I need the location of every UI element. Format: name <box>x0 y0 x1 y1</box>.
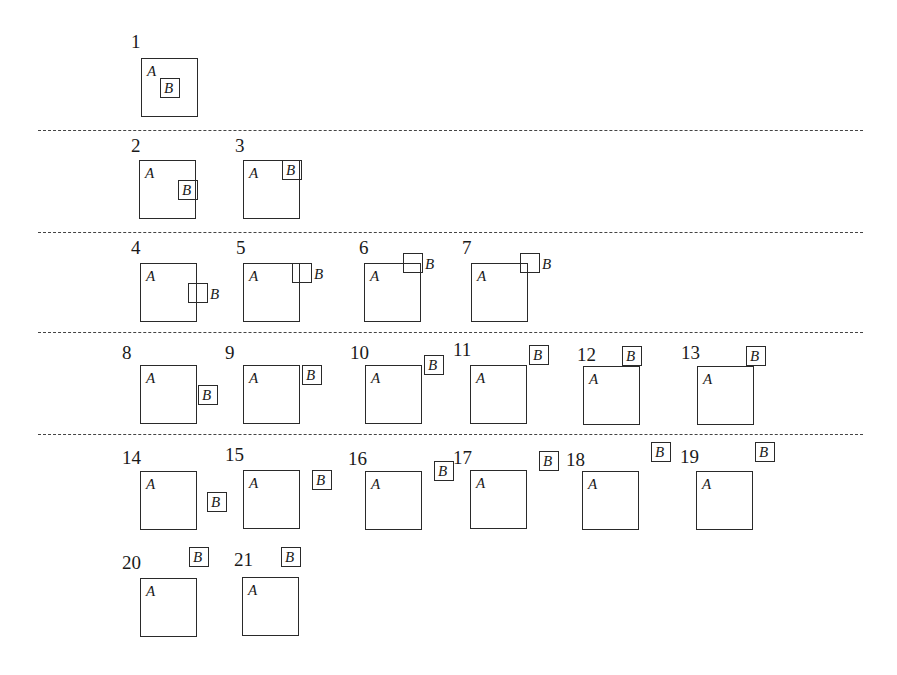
panel-number: 13 <box>681 343 700 362</box>
label-b: B <box>533 348 542 363</box>
label-a: A <box>145 166 154 181</box>
label-b: B <box>750 349 759 364</box>
label-a: A <box>703 372 712 387</box>
panel-number: 14 <box>122 448 141 467</box>
label-a: A <box>146 269 155 284</box>
label-a: A <box>476 476 485 491</box>
label-b: B <box>306 368 315 383</box>
label-a: A <box>248 583 257 598</box>
panel-number: 17 <box>453 448 472 467</box>
panel-number: 18 <box>566 450 585 469</box>
panel-number: 10 <box>350 343 369 362</box>
label-a: A <box>147 64 156 79</box>
panel-number: 9 <box>225 343 235 362</box>
panel-number: 11 <box>453 340 471 359</box>
panel-number: 7 <box>462 238 472 257</box>
label-b: B <box>759 445 768 460</box>
label-a: A <box>371 371 380 386</box>
label-b: B <box>210 287 219 302</box>
row-separator <box>38 434 863 435</box>
label-a: A <box>146 584 155 599</box>
panel-number: 2 <box>131 136 141 155</box>
label-a: A <box>146 371 155 386</box>
box-b <box>520 253 540 273</box>
label-b: B <box>425 257 434 272</box>
label-a: A <box>249 166 258 181</box>
label-a: A <box>589 372 598 387</box>
panel-number: 8 <box>122 343 132 362</box>
box-b <box>292 263 312 283</box>
label-b: B <box>202 388 211 403</box>
label-b: B <box>655 445 664 460</box>
label-b: B <box>285 550 294 565</box>
label-b: B <box>542 257 551 272</box>
label-b: B <box>193 550 202 565</box>
panel-number: 4 <box>131 238 141 257</box>
box-b <box>188 283 208 303</box>
label-a: A <box>249 476 258 491</box>
spatial-relations-diagram: 1AB2AB3AB4AB5AB6AB7AB8AB9AB10AB11AB12AB1… <box>0 0 897 675</box>
label-a: A <box>371 477 380 492</box>
panel-number: 19 <box>680 447 699 466</box>
label-b: B <box>438 464 447 479</box>
panel-number: 15 <box>225 445 244 464</box>
label-a: A <box>476 371 485 386</box>
panel-number: 1 <box>131 32 141 51</box>
box-b <box>403 253 423 273</box>
row-separator <box>38 332 863 333</box>
label-a: A <box>146 477 155 492</box>
label-b: B <box>164 81 173 96</box>
label-a: A <box>477 269 486 284</box>
label-b: B <box>428 358 437 373</box>
label-a: A <box>702 477 711 492</box>
panel-number: 6 <box>359 238 369 257</box>
label-a: A <box>249 269 258 284</box>
panel-number: 20 <box>122 553 141 572</box>
label-a: A <box>370 269 379 284</box>
label-b: B <box>316 473 325 488</box>
label-b: B <box>626 349 635 364</box>
label-a: A <box>588 477 597 492</box>
label-b: B <box>182 183 191 198</box>
row-separator <box>38 232 863 233</box>
label-b: B <box>211 495 220 510</box>
panel-number: 12 <box>577 345 596 364</box>
panel-number: 3 <box>235 136 245 155</box>
panel-number: 16 <box>348 449 367 468</box>
label-b: B <box>543 454 552 469</box>
row-separator <box>38 130 863 131</box>
panel-number: 21 <box>234 550 253 569</box>
label-b: B <box>286 163 295 178</box>
label-a: A <box>249 371 258 386</box>
panel-number: 5 <box>236 238 246 257</box>
label-b: B <box>314 267 323 282</box>
